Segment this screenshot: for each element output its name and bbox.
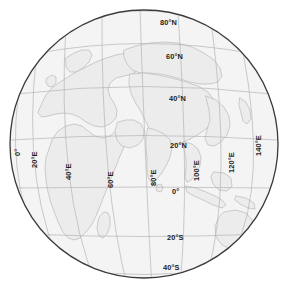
latitude-label-0: 0° bbox=[172, 187, 179, 196]
latitude-label-80n: 80°N bbox=[160, 18, 177, 27]
latitude-label-60n: 60°N bbox=[166, 52, 183, 61]
latitude-label-40s: 40°S bbox=[163, 263, 180, 272]
longitude-label-120e: 120°E bbox=[227, 152, 236, 173]
longitude-label-20e: 20°E bbox=[30, 151, 39, 168]
longitude-label-60e: 60°E bbox=[106, 171, 115, 188]
latitude-label-40n: 40°N bbox=[169, 94, 186, 103]
latitude-label-20n: 20°N bbox=[170, 141, 187, 150]
globe-svg: 80°N 60°N 40°N 20°N 0° 20°S 40°S 0° 20°E… bbox=[0, 0, 284, 296]
globe-figure: 80°N 60°N 40°N 20°N 0° 20°S 40°S 0° 20°E… bbox=[0, 0, 284, 296]
longitude-label-80e: 80°E bbox=[149, 169, 158, 186]
longitude-label-140e: 140°E bbox=[254, 135, 263, 156]
latitude-label-20s: 20°S bbox=[167, 233, 184, 242]
longitude-label-40e: 40°E bbox=[64, 163, 73, 180]
longitude-label-0: 0° bbox=[13, 149, 22, 156]
longitude-label-100e: 100°E bbox=[192, 160, 201, 181]
